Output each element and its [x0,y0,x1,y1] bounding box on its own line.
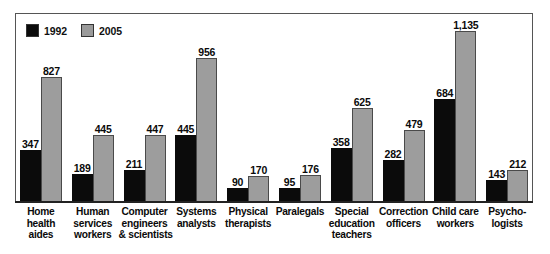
bar-value-label: 956 [198,46,215,58]
category-label-line: Home [15,206,67,218]
bar-chart: 1992 2005 347827189445211447445956901709… [0,0,550,254]
category-label-line: analysts [170,218,222,230]
bar-1992: 684 [434,99,455,202]
bar-2005: 1,135 [455,31,476,202]
bar-value-label: 684 [436,87,453,99]
category-label-line: Psycho- [481,206,533,218]
bar-value-label: 445 [177,123,194,135]
bar-1992: 347 [20,150,41,202]
bar-group: 6841,135 [434,13,476,202]
category-label: Systemsanalysts [170,206,222,229]
bar-value-label: 143 [488,168,505,180]
bar-2005: 176 [300,175,321,202]
bar-group: 211447 [124,13,166,202]
bar-1992: 90 [227,188,248,202]
category-label-line: Special [326,206,378,218]
chart-legend: 1992 2005 [26,24,122,37]
bar-1992: 143 [486,180,507,202]
bar-2005: 479 [404,130,425,202]
bar-2005: 625 [352,108,373,202]
bar-group-bars: 189445 [72,13,114,202]
category-label-line: Correction [378,206,430,218]
legend-swatch-black-icon [26,24,39,37]
bar-1992: 282 [383,160,404,202]
x-axis-line [15,201,533,203]
bar-2005: 447 [145,135,166,202]
category-label: Child careworkers [429,206,481,229]
category-label-line: officers [378,218,430,230]
bar-group-bars: 90170 [227,13,269,202]
bar-2005: 170 [248,176,269,202]
category-label-line: Paralegals [274,206,326,218]
category-label-line: education [326,218,378,230]
category-label-line: & scientists [119,229,171,241]
bar-value-label: 176 [302,163,319,175]
category-label-line: health [15,218,67,230]
bar-1992: 358 [331,148,352,202]
bar-group-bars: 282479 [383,13,425,202]
bar-group-bars: 445956 [175,13,217,202]
bar-group-bars: 347827 [20,13,62,202]
bar-group: 358625 [331,13,373,202]
category-label: Computerengineers& scientists [119,206,171,241]
category-label: Paralegals [274,206,326,218]
bar-value-label: 625 [354,96,371,108]
bar-1992: 95 [279,188,300,202]
bar-value-label: 827 [43,65,60,77]
bar-group: 90170 [227,13,269,202]
bar-group: 445956 [175,13,217,202]
category-label: Correctionofficers [378,206,430,229]
category-label-line: Computer [119,206,171,218]
category-label-line: workers [429,218,481,230]
category-label: Specialeducationteachers [326,206,378,241]
category-label-line: logists [481,218,533,230]
bar-group: 347827 [20,13,62,202]
bar-1992: 189 [72,174,93,202]
category-label-line: Physical [222,206,274,218]
category-labels: HomehealthaidesHumanservicesworkersCompu… [15,206,533,254]
bar-value-label: 282 [385,148,402,160]
legend-swatch-gray-icon [81,24,94,37]
bar-value-label: 211 [126,158,142,170]
legend-label-1992: 1992 [44,25,67,37]
bar-2005: 827 [41,77,62,202]
category-label-line: therapists [222,218,274,230]
bar-2005: 212 [507,170,528,202]
bar-2005: 956 [196,58,217,202]
category-label-line: workers [67,229,119,241]
bar-value-label: 358 [333,136,350,148]
category-label-line: engineers [119,218,171,230]
category-label-line: Systems [170,206,222,218]
bar-value-label: 479 [406,118,423,130]
bar-value-label: 447 [147,123,164,135]
bar-value-label: 95 [284,176,295,188]
bar-value-label: 90 [232,176,243,188]
bar-group: 189445 [72,13,114,202]
category-label-line: teachers [326,229,378,241]
bar-1992: 445 [175,135,196,202]
bar-group-bars: 211447 [124,13,166,202]
bar-1992: 211 [124,170,145,202]
bar-group: 95176 [279,13,321,202]
bar-value-label: 347 [22,138,39,150]
legend-item-2005: 2005 [81,24,122,37]
bar-group: 143212 [486,13,528,202]
bar-value-label: 189 [74,162,91,174]
bars-layer: 3478271894452114474459569017095176358625… [15,13,533,202]
category-label: Psycho-logists [481,206,533,229]
bar-group-bars: 358625 [331,13,373,202]
bar-group-bars: 6841,135 [434,13,476,202]
category-label: Homehealthaides [15,206,67,241]
bar-value-label: 212 [509,158,526,170]
category-label: Humanservicesworkers [67,206,119,241]
bar-value-label: 170 [250,164,267,176]
bar-value-label: 445 [95,123,112,135]
category-label-line: Child care [429,206,481,218]
category-label: Physicaltherapists [222,206,274,229]
category-label-line: Human [67,206,119,218]
bar-group-bars: 95176 [279,13,321,202]
legend-item-1992: 1992 [26,24,67,37]
bar-group: 282479 [383,13,425,202]
bar-2005: 445 [93,135,114,202]
bar-group-bars: 143212 [486,13,528,202]
